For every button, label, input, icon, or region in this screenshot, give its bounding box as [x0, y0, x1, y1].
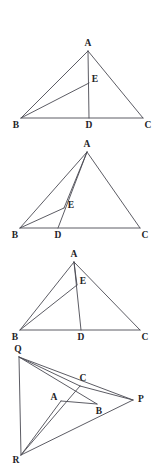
- figure-1-vertex-label-e: E: [92, 74, 98, 84]
- figure-3-vertex-label-b: B: [12, 332, 19, 342]
- figure-4-vertex-label-b: B: [96, 406, 103, 416]
- figure-3-vertex-label-d: D: [78, 332, 85, 342]
- figure-1-vertex-label-a: A: [85, 38, 92, 48]
- figure-1-cevian-ad: [88, 51, 89, 118]
- figure-4-cevian-ra: [21, 401, 61, 455]
- figure-2-vertex-label-b: B: [12, 230, 19, 240]
- figure-canvas: ABCDEABCDEABCDEQRPABC: [0, 0, 157, 464]
- figure-2-segment-be: [20, 208, 64, 228]
- triangle-abc-with-cevian-ad-and-point-e-high: ABCDE: [12, 249, 149, 342]
- figure-2-vertex-label-e: E: [68, 200, 74, 210]
- figure-2-vertex-label-a: A: [84, 139, 91, 149]
- figure-4-vertex-label-a: A: [51, 392, 58, 402]
- figure-4-segment-qc-extended: [19, 357, 80, 386]
- figure-4-side-qr: [19, 357, 21, 455]
- figure-4-vertex-label-r: R: [13, 455, 20, 464]
- figure-3-side-ac: [74, 262, 140, 330]
- triangle-pqr-with-inner-triangle-abc: QRPABC: [13, 344, 145, 464]
- figure-1-vertex-label-b: B: [13, 120, 20, 130]
- figure-3-segment-ae: [74, 262, 77, 285]
- figure-1-vertex-label-c: C: [145, 120, 152, 130]
- figure-1-side-ab: [21, 51, 88, 118]
- figure-4-side-pq: [19, 357, 133, 400]
- figure-4-vertex-label-c: C: [80, 373, 87, 383]
- figure-4-side-rp: [21, 400, 133, 455]
- figure-2-vertex-label-c: C: [142, 230, 149, 240]
- figure-1-side-ac: [88, 51, 143, 118]
- figure-2-side-ac: [87, 152, 140, 228]
- geometry-figure-sheet: ABCDEABCDEABCDEQRPABC: [0, 0, 157, 464]
- figure-2-side-ab: [20, 152, 87, 228]
- figure-3-segment-be: [20, 285, 77, 330]
- figure-2-vertex-label-d: D: [55, 230, 62, 240]
- figure-3-vertex-label-a: A: [71, 249, 78, 259]
- figure-4-vertex-label-p: P: [138, 394, 144, 404]
- figure-3-vertex-label-e: E: [80, 276, 86, 286]
- figure-3-side-ab: [20, 262, 74, 330]
- triangle-abc-with-cevian-ad-left-and-point-e: ABCDE: [12, 139, 149, 240]
- triangle-abc-with-cevian-ad-and-point-e: ABCDE: [13, 38, 152, 130]
- figure-4-segment-cp: [80, 386, 133, 400]
- figure-4-vertex-label-q: Q: [14, 344, 21, 354]
- figure-1-vertex-label-d: D: [86, 120, 93, 130]
- figure-1-segment-be: [21, 83, 89, 118]
- figure-3-vertex-label-c: C: [142, 332, 149, 342]
